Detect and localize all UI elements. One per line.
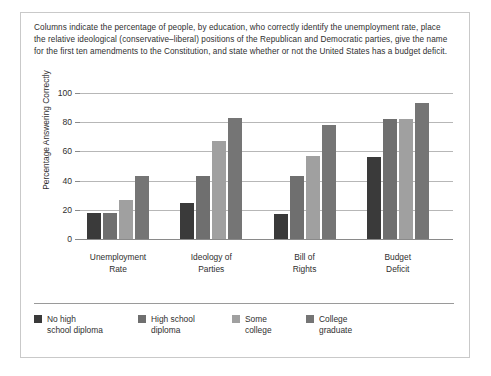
x-axis-category-label: BudgetDeficit (338, 252, 458, 275)
bar (87, 213, 101, 239)
chart-container: Percentage Answering Correctly 020406080… (21, 13, 471, 359)
legend-item: Somecollege (232, 314, 272, 336)
bar (367, 157, 381, 239)
legend-item: Collegegraduate (306, 314, 352, 336)
legend-item: High schooldiploma (138, 314, 195, 336)
bar (196, 176, 210, 239)
bar (306, 156, 320, 239)
bar (322, 125, 336, 239)
legend-swatch-icon (232, 315, 240, 323)
bar-group (180, 93, 242, 239)
legend-label: No highschool diploma (47, 314, 103, 336)
bar-group (87, 93, 149, 239)
legend-swatch-icon (138, 315, 146, 323)
bar (103, 213, 117, 239)
bar (383, 119, 397, 239)
bar (228, 118, 242, 239)
legend-divider (34, 303, 454, 304)
bar (399, 119, 413, 239)
bar (212, 141, 226, 239)
y-axis-title: Percentage Answering Correctly (41, 50, 51, 210)
bar (274, 214, 288, 239)
legend-swatch-icon (306, 315, 314, 323)
chart-legend: No highschool diplomaHigh schooldiplomaS… (34, 314, 454, 348)
legend-label: High schooldiploma (151, 314, 195, 336)
bar (135, 176, 149, 239)
bar-series-group (80, 93, 453, 239)
bar (290, 176, 304, 239)
y-tick-label-100: 100 (58, 88, 72, 98)
bar-group (367, 93, 429, 239)
y-tick-label-80: 80 (62, 117, 72, 127)
y-tick-label-0: 0 (67, 234, 72, 244)
legend-label: Somecollege (245, 314, 272, 336)
gridline-0 (80, 239, 453, 240)
y-tick-label-60: 60 (62, 146, 72, 156)
figure-frame: Columns indicate the percentage of peopl… (20, 12, 470, 358)
bar-group (274, 93, 336, 239)
plot-area: 020406080100 UnemploymentRateIdeology of… (80, 93, 453, 239)
bar (415, 103, 429, 239)
bar (180, 203, 194, 240)
y-tick-label-40: 40 (62, 176, 72, 186)
legend-label: Collegegraduate (319, 314, 352, 336)
y-tick-label-20: 20 (62, 205, 72, 215)
legend-swatch-icon (34, 315, 42, 323)
legend-item: No highschool diploma (34, 314, 103, 336)
y-tick-mark-0 (75, 239, 80, 240)
bar (119, 200, 133, 239)
